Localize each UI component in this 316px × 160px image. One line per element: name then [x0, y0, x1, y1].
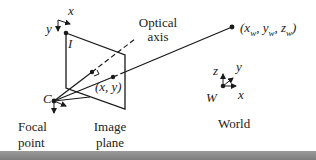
world-origin-label: W — [206, 91, 217, 105]
optical-axis — [54, 72, 92, 101]
image-axis-y-label: y — [46, 22, 52, 36]
image-plane-label: Image plane — [88, 119, 132, 151]
image-corner-label: I — [68, 37, 72, 51]
image-point-label: (x, y) — [95, 80, 122, 94]
world-axis-z-label: z — [213, 64, 218, 78]
image-axes — [58, 20, 70, 31]
focal-point-symbol: C — [43, 92, 52, 106]
image-plane — [66, 33, 125, 109]
focal-point-label: Focal point — [18, 119, 47, 151]
world-label: World — [218, 117, 250, 131]
bottom-border — [0, 151, 316, 160]
world-axis-y-label: y — [236, 60, 242, 74]
principal-point — [90, 70, 94, 74]
world-point-dot — [230, 25, 235, 30]
image-axis-x-label: x — [68, 4, 74, 18]
image-origin-dot — [64, 31, 69, 36]
right-angle-mark — [94, 70, 99, 76]
optical-axis-dashed — [92, 39, 135, 72]
world-point-label: (xw, yw, zw) — [240, 21, 296, 40]
world-axes — [221, 74, 236, 88]
world-axis-x-label: x — [238, 88, 244, 102]
optical-axis-label: Optical axis — [138, 16, 178, 44]
